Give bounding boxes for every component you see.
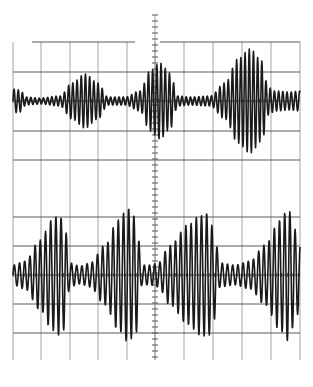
- oscilloscope-display: [0, 0, 313, 387]
- center-axis-ticks: [13, 15, 299, 357]
